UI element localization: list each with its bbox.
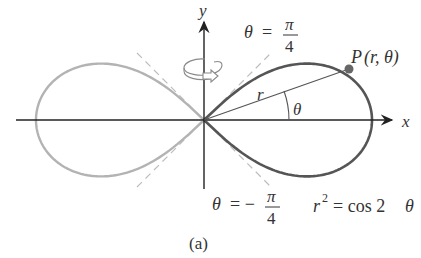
equation-label: r 2 = cos 2 θ bbox=[313, 191, 414, 216]
eq-theta: θ bbox=[405, 196, 414, 216]
radius-line bbox=[204, 69, 349, 120]
theta-symbol: θ bbox=[212, 194, 221, 214]
label-theta-minus-pi-over-4: θ = − π 4 bbox=[212, 187, 280, 228]
x-axis-label: x bbox=[401, 112, 410, 131]
point-label-p: P bbox=[350, 47, 362, 67]
caption: (a) bbox=[189, 234, 208, 253]
eq-rhs: = cos 2 bbox=[333, 196, 385, 216]
eq-r: r bbox=[313, 196, 321, 216]
theta-symbol: θ bbox=[244, 22, 253, 42]
fraction-denominator: 4 bbox=[285, 37, 294, 56]
point-label-coords: (r, θ) bbox=[364, 47, 399, 68]
angle-label: θ bbox=[293, 100, 301, 119]
angle-arc bbox=[284, 91, 289, 120]
rotate-about-y-axis-icon bbox=[184, 59, 222, 82]
radius-label: r bbox=[257, 85, 264, 104]
label-point-p: P (r, θ) bbox=[350, 47, 399, 68]
eq-exponent: 2 bbox=[322, 191, 328, 205]
y-axis-label: y bbox=[197, 1, 207, 20]
label-theta-pi-over-4: θ = π 4 bbox=[244, 15, 298, 56]
fraction-numerator: π bbox=[285, 15, 294, 34]
fraction-denominator: 4 bbox=[267, 209, 276, 228]
lemniscate-figure: y x θ = π 4 P (r, θ) r θ θ = − π 4 r 2 =… bbox=[0, 0, 421, 258]
equals-sign: = bbox=[262, 22, 272, 42]
equals-minus: = − bbox=[230, 194, 255, 214]
fraction-numerator: π bbox=[267, 187, 276, 206]
